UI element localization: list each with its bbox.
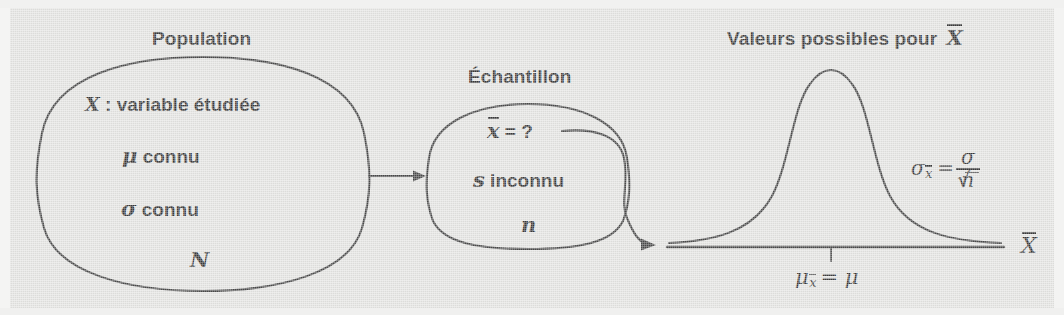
population-symbol-mu: μ bbox=[122, 143, 137, 168]
population-symbol-sigma: σ bbox=[121, 196, 136, 221]
sample-symbol-xbar: x bbox=[487, 117, 500, 143]
population-separator: : bbox=[100, 94, 117, 115]
sample-text-xbar: = ? bbox=[505, 121, 533, 142]
sample-symbol-s: s bbox=[473, 167, 485, 192]
statistics-sampling-diagram: Population X : variable étudiée μ connu … bbox=[0, 0, 1064, 315]
distribution-heading-prefix: Valeurs possibles pour bbox=[727, 28, 937, 49]
population-line-variable: X : variable étudiée bbox=[85, 93, 260, 116]
mean-label-equals: = μ bbox=[821, 265, 859, 289]
distribution-heading: Valeurs possibles pour X bbox=[727, 24, 963, 50]
population-text-variable: variable étudiée bbox=[117, 94, 261, 115]
population-text-mu: connu bbox=[143, 146, 200, 167]
arrow-population-to-sample bbox=[369, 171, 426, 182]
population-line-mu: μ connu bbox=[122, 143, 200, 168]
sd-equals-sign: = bbox=[937, 156, 954, 180]
standard-error-formula: σx=σn bbox=[911, 148, 982, 192]
mean-label: μx= μ bbox=[795, 265, 858, 290]
mean-label-mu: μ bbox=[795, 265, 809, 289]
sd-symbol-sigma: σ bbox=[911, 156, 925, 180]
population-line-sigma: σ connu bbox=[121, 196, 199, 221]
axis-label-symbol: X bbox=[1021, 232, 1037, 258]
sample-symbol-n: n bbox=[521, 212, 536, 237]
page-edge-bottom bbox=[0, 308, 1064, 315]
population-heading: Population bbox=[152, 28, 251, 50]
population-symbol-n-capital: N bbox=[190, 247, 209, 272]
sd-numerator: σ bbox=[956, 147, 980, 167]
arrow-sample-to-distribution bbox=[562, 130, 656, 250]
sample-line-s: s inconnu bbox=[473, 167, 564, 192]
sample-line-xbar: x = ? bbox=[487, 117, 533, 143]
distribution-heading-symbol-xbar: X bbox=[947, 24, 963, 50]
axis-label-xbar: X bbox=[1021, 232, 1037, 259]
sd-denominator-sqrt-n: n bbox=[957, 170, 978, 191]
sd-subscript-xbar: x bbox=[925, 165, 932, 181]
mean-label-subscript: x bbox=[809, 274, 816, 290]
sample-text-s: inconnu bbox=[490, 170, 564, 191]
page-edge-right bbox=[1054, 0, 1064, 315]
sample-heading: Échantillon bbox=[468, 66, 572, 88]
population-text-sigma: connu bbox=[142, 199, 199, 220]
sd-fraction: σn bbox=[956, 147, 980, 191]
population-symbol-x: X bbox=[85, 93, 100, 115]
